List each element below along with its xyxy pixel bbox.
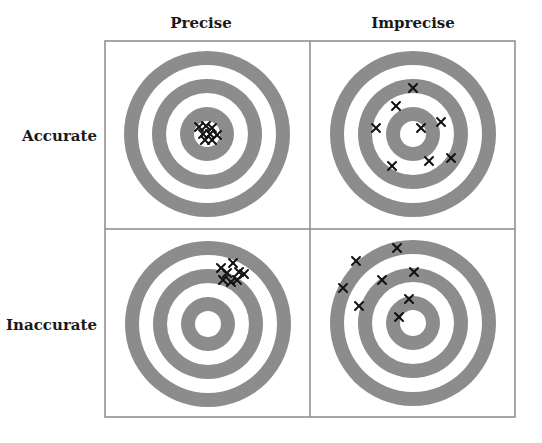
target-ring	[400, 121, 426, 147]
target-accurate-imprecise	[330, 51, 496, 217]
target-accurate-precise	[124, 51, 290, 217]
target-inaccurate-imprecise	[330, 240, 496, 406]
target-ring	[400, 310, 426, 336]
accuracy-precision-figure	[0, 0, 542, 443]
target-ring	[195, 311, 221, 337]
target-inaccurate-precise	[125, 241, 291, 407]
